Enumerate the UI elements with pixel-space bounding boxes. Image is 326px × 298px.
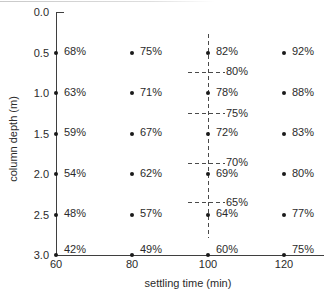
data-point bbox=[130, 172, 134, 176]
data-point bbox=[54, 172, 58, 176]
point-percent-label: 49% bbox=[140, 243, 162, 255]
point-percent-label: 83% bbox=[292, 126, 314, 138]
x-tick-label: 80 bbox=[112, 258, 152, 270]
point-percent-label: 69% bbox=[216, 167, 238, 179]
data-point bbox=[54, 51, 58, 55]
data-point bbox=[54, 132, 58, 136]
point-percent-label: 64% bbox=[216, 207, 238, 219]
point-percent-label: 75% bbox=[140, 45, 162, 57]
settling-column-chart: column depth (m) 0.00.51.01.52.02.53.060… bbox=[0, 0, 326, 298]
point-percent-label: 67% bbox=[140, 126, 162, 138]
x-tick-label: 60 bbox=[36, 258, 76, 270]
data-point bbox=[206, 91, 210, 95]
point-percent-label: 57% bbox=[140, 207, 162, 219]
y-tick-label: 2.5 bbox=[17, 209, 49, 221]
scan-artifact-line bbox=[0, 1, 215, 2]
data-point bbox=[130, 213, 134, 217]
y-tick-label: 1.0 bbox=[17, 87, 49, 99]
x-tick-label: 120 bbox=[264, 258, 304, 270]
data-point bbox=[282, 213, 286, 217]
iso-percent-label: 80% bbox=[226, 65, 248, 77]
point-percent-label: 48% bbox=[64, 207, 86, 219]
point-percent-label: 72% bbox=[216, 126, 238, 138]
point-percent-label: 77% bbox=[292, 207, 314, 219]
x-tick-label: 100 bbox=[188, 258, 228, 270]
data-point bbox=[206, 51, 210, 55]
data-point bbox=[282, 132, 286, 136]
data-point bbox=[206, 172, 210, 176]
data-point bbox=[130, 132, 134, 136]
data-point bbox=[282, 91, 286, 95]
iso-crosshair bbox=[188, 202, 225, 203]
iso-crosshair bbox=[188, 163, 225, 164]
point-percent-label: 63% bbox=[64, 86, 86, 98]
iso-percent-label: 75% bbox=[226, 107, 248, 119]
data-point bbox=[282, 51, 286, 55]
data-point bbox=[206, 253, 210, 257]
point-percent-label: 60% bbox=[216, 243, 238, 255]
origin-tick bbox=[56, 12, 64, 13]
data-point bbox=[54, 253, 58, 257]
x-axis-title: settling time (min) bbox=[145, 277, 232, 289]
point-percent-label: 80% bbox=[292, 167, 314, 179]
point-percent-label: 62% bbox=[140, 167, 162, 179]
point-percent-label: 59% bbox=[64, 126, 86, 138]
data-point bbox=[54, 213, 58, 217]
point-percent-label: 42% bbox=[64, 243, 86, 255]
y-tick-label: 1.5 bbox=[17, 128, 49, 140]
point-percent-label: 68% bbox=[64, 45, 86, 57]
data-point bbox=[54, 91, 58, 95]
data-point bbox=[130, 253, 134, 257]
data-point bbox=[130, 91, 134, 95]
data-point bbox=[282, 172, 286, 176]
y-tick-label: 0.5 bbox=[17, 47, 49, 59]
data-point bbox=[206, 213, 210, 217]
point-percent-label: 92% bbox=[292, 45, 314, 57]
iso-crosshair bbox=[188, 72, 225, 73]
y-tick-label: 2.0 bbox=[17, 168, 49, 180]
data-point bbox=[206, 132, 210, 136]
point-percent-label: 75% bbox=[292, 243, 314, 255]
data-point bbox=[130, 51, 134, 55]
point-percent-label: 88% bbox=[292, 86, 314, 98]
dashed-guide-line bbox=[208, 34, 209, 238]
point-percent-label: 71% bbox=[140, 86, 162, 98]
point-percent-label: 78% bbox=[216, 86, 238, 98]
y-tick-label: 0.0 bbox=[17, 6, 49, 18]
data-point bbox=[282, 253, 286, 257]
iso-crosshair bbox=[188, 113, 225, 114]
point-percent-label: 54% bbox=[64, 167, 86, 179]
point-percent-label: 82% bbox=[216, 45, 238, 57]
